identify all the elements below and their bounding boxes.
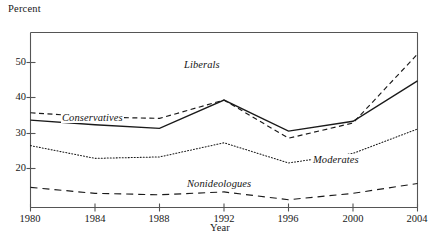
y-axis-title: Percent xyxy=(8,3,41,14)
series-line-liberals xyxy=(31,54,418,138)
series-label-liberals: Liberals xyxy=(183,59,221,70)
x-tick-label-2004: 2004 xyxy=(387,213,440,224)
x-tick-label-1996: 1996 xyxy=(258,213,318,224)
y-tick-label-40: 40 xyxy=(0,91,26,102)
y-tick-label-30: 30 xyxy=(0,127,26,138)
x-tick-label-1980: 1980 xyxy=(0,213,60,224)
chart-plot-area xyxy=(0,0,440,248)
x-tick-label-1984: 1984 xyxy=(65,213,125,224)
series-label-conservatives: Conservatives xyxy=(61,112,124,123)
y-tick-label-20: 20 xyxy=(0,162,26,173)
series-label-moderates: Moderates xyxy=(312,154,360,165)
x-tick-label-2000: 2000 xyxy=(323,213,383,224)
series-label-nonideologues: Nonideologues xyxy=(186,178,252,189)
chart-figure: Percent Year 50 40 30 20 1980 1984 1988 … xyxy=(0,0,440,248)
x-tick-label-1992: 1992 xyxy=(194,213,254,224)
series-line-conservatives xyxy=(31,81,418,131)
y-tick-label-50: 50 xyxy=(0,56,26,67)
x-tick-label-1988: 1988 xyxy=(129,213,189,224)
